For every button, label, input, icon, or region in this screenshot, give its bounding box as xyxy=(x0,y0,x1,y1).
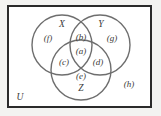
region-label-f: (f) xyxy=(44,34,53,43)
region-label-d: (d) xyxy=(93,58,104,67)
region-label-b: (b) xyxy=(76,33,87,42)
set-label-y: Y xyxy=(98,20,103,30)
universe-label: U xyxy=(17,93,24,103)
region-label-a: (a) xyxy=(76,47,87,56)
region-label-c: (c) xyxy=(59,58,69,67)
venn-circles xyxy=(0,0,161,116)
region-label-e: (e) xyxy=(76,72,86,81)
region-label-h: (h) xyxy=(124,80,135,89)
set-label-x: X xyxy=(59,20,65,30)
set-label-z: Z xyxy=(78,84,83,94)
venn-diagram-figure: X Y Z U (a) (b) (c) (d) (e) (f) (g) (h) xyxy=(0,0,161,116)
region-label-g: (g) xyxy=(107,34,118,43)
